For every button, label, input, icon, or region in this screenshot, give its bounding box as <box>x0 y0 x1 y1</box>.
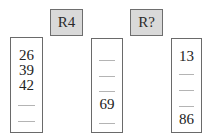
column-1-slot-1: 26 <box>11 47 42 63</box>
column-2-blank-3 <box>99 91 115 92</box>
rule-label-unknown: R? <box>130 9 163 36</box>
column-2-slot-4: 69 <box>92 96 122 112</box>
column-2: 69 <box>91 38 123 133</box>
column-1: 26 39 42 <box>10 37 43 133</box>
column-3-blank-2 <box>179 74 194 75</box>
rule-label-r4: R4 <box>50 9 83 36</box>
column-2-blank-5 <box>99 123 115 124</box>
column-1-slot-2: 39 <box>11 62 42 78</box>
column-3-blank-3 <box>179 90 194 91</box>
column-1-blank-4 <box>18 105 35 106</box>
column-3-blank-4 <box>179 106 194 107</box>
column-3-slot-5: 86 <box>172 111 201 127</box>
column-3: 13 86 <box>171 38 202 133</box>
column-1-blank-5 <box>18 121 35 122</box>
column-3-slot-1: 13 <box>172 48 201 64</box>
column-2-blank-2 <box>99 76 115 77</box>
column-1-slot-3: 42 <box>11 77 42 93</box>
column-2-blank-1 <box>99 60 115 61</box>
